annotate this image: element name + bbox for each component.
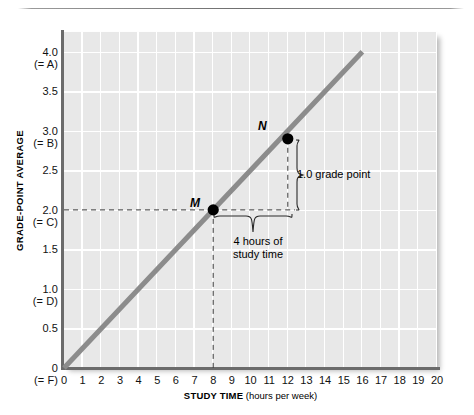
x-axis-ticks: 01234567891011121314151617181920 bbox=[0, 374, 474, 390]
x-axis-title-light: (hours per week) bbox=[246, 390, 317, 401]
y-tick-label: 1.0(= D) bbox=[0, 283, 58, 307]
y-axis-title: GRADE-POINT AVERAGE bbox=[14, 111, 25, 271]
y-tick-value: 2.5 bbox=[42, 164, 58, 176]
y-tick-grade-letter: (= C) bbox=[0, 216, 58, 228]
x-axis-line bbox=[61, 367, 440, 370]
chart-figure: 4.0(= A)3.53.0(= B)2.52.0(= C)1.51.0(= D… bbox=[0, 0, 474, 415]
y-tick-value: 1.5 bbox=[42, 243, 58, 255]
y-tick-value: 0.5 bbox=[42, 322, 58, 334]
y-tick-value: 3.5 bbox=[42, 85, 58, 97]
y-tick-value: 4.0 bbox=[42, 46, 58, 58]
y-tick-value: 0 bbox=[52, 362, 58, 374]
y-tick-label: 1.5 bbox=[0, 243, 58, 255]
y-tick-value: 2.0 bbox=[42, 204, 58, 216]
annotation-run-line1: 4 hours of bbox=[210, 235, 306, 248]
y-tick-label: 3.0(= B) bbox=[0, 125, 58, 149]
annotation-rise: 1.0 grade point bbox=[297, 168, 370, 180]
annotation-run-line2: study time bbox=[210, 248, 306, 261]
y-tick-label: 3.5 bbox=[0, 85, 58, 97]
y-tick-value: 3.0 bbox=[42, 125, 58, 137]
x-axis-title-strong: STUDY TIME bbox=[184, 390, 243, 401]
point-label-N: N bbox=[258, 119, 267, 133]
y-tick-grade-letter: (= A) bbox=[0, 58, 58, 70]
y-axis-line bbox=[61, 30, 64, 370]
y-tick-label: 2.0(= C) bbox=[0, 204, 58, 228]
y-tick-label: 0.5 bbox=[0, 322, 58, 334]
y-tick-grade-letter: (= D) bbox=[0, 295, 58, 307]
y-tick-label: 2.5 bbox=[0, 164, 58, 176]
x-axis-title: STUDY TIME (hours per week) bbox=[64, 390, 437, 401]
x-tick-label: 20 bbox=[426, 374, 448, 387]
horizontal-gridlines bbox=[64, 32, 437, 368]
y-tick-grade-letter: (= B) bbox=[0, 137, 58, 149]
y-axis-ticks: 4.0(= A)3.53.0(= B)2.52.0(= C)1.51.0(= D… bbox=[0, 0, 58, 415]
annotation-run: 4 hours of study time bbox=[210, 235, 306, 261]
plot-area bbox=[64, 32, 437, 368]
y-tick-value: 1.0 bbox=[42, 283, 58, 295]
y-tick-label: 4.0(= A) bbox=[0, 46, 58, 70]
point-label-M: M bbox=[190, 196, 200, 210]
